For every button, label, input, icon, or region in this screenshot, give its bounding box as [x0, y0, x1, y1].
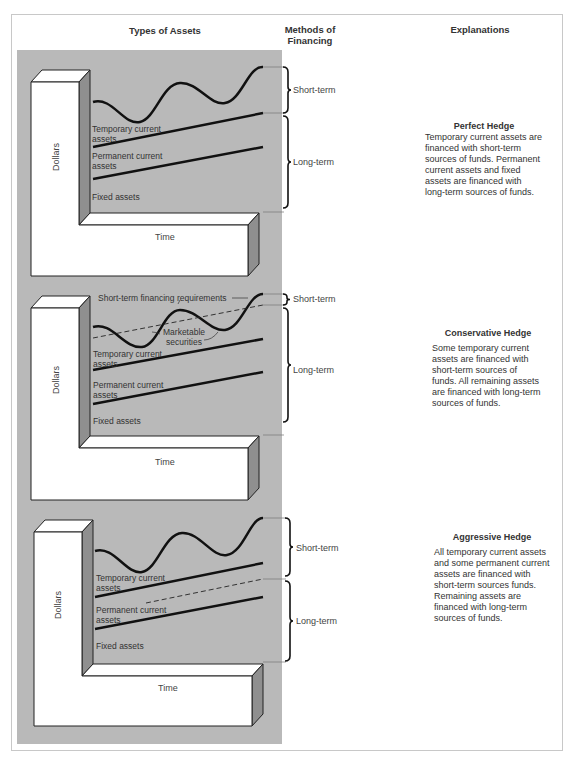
braces-3 — [285, 518, 293, 661]
title-aggressive-hedge: Aggressive Hedge — [434, 532, 550, 543]
permanent-current-assets-label-3: Permanent currentassets — [96, 605, 166, 625]
y-axis-label-2: Dollars — [51, 362, 61, 398]
braces-1 — [283, 67, 291, 208]
guide-lines-2 — [263, 294, 284, 435]
braces-2 — [283, 294, 291, 422]
short-term-financing-requirements-label: Short-term financing requirements — [98, 293, 227, 303]
y-axis-label-3: Dollars — [53, 587, 63, 623]
long-term-label-2: Long-term — [293, 365, 334, 375]
text-aggressive-hedge: All temporary current assets and some pe… — [434, 547, 550, 623]
temporary-current-assets-label-3: Temporary currentassets — [96, 573, 165, 593]
explanation-perfect-hedge: Perfect Hedge Temporary current assets a… — [425, 121, 543, 198]
text-conservative-hedge: Some temporary current assets are financ… — [432, 343, 541, 408]
x-axis-label-2: Time — [155, 457, 175, 467]
title-conservative-hedge: Conservative Hedge — [432, 328, 544, 339]
long-term-label-3: Long-term — [296, 616, 337, 626]
short-term-label-1: Short-term — [293, 85, 336, 95]
marketable-securities-label: Marketablesecurities — [163, 327, 205, 347]
fixed-assets-label-3: Fixed assets — [96, 641, 144, 651]
guide-lines-3 — [263, 518, 286, 662]
x-axis-label-3: Time — [158, 683, 178, 693]
fixed-assets-label-2: Fixed assets — [93, 416, 141, 426]
text-perfect-hedge: Temporary current assets are financed wi… — [425, 132, 542, 197]
permanent-current-assets-label-2: Permanent currentassets — [93, 380, 163, 400]
permanent-current-assets-label-1: Permanent currentassets — [92, 151, 162, 171]
y-axis-label-1: Dollars — [51, 139, 61, 175]
long-term-label-1: Long-term — [293, 157, 334, 167]
fixed-assets-label-1: Fixed assets — [92, 192, 140, 202]
short-term-label-3: Short-term — [296, 543, 339, 553]
guide-lines-1 — [263, 67, 284, 212]
title-perfect-hedge: Perfect Hedge — [425, 121, 543, 132]
temporary-current-assets-label-1: Temporary currentassets — [92, 124, 161, 144]
explanation-conservative-hedge: Conservative Hedge Some temporary curren… — [432, 328, 544, 409]
x-axis-label-1: Time — [155, 232, 175, 242]
l-block-1 — [31, 70, 259, 276]
temporary-current-assets-label-2: Temporary currentassets — [93, 349, 162, 369]
short-term-label-2: Short-term — [293, 294, 336, 304]
explanation-aggressive-hedge: Aggressive Hedge All temporary current a… — [434, 532, 550, 624]
